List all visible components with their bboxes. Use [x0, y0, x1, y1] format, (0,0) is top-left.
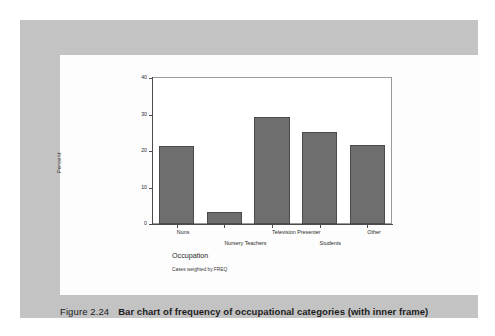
figure-caption-text: Bar chart of frequency of occupational c…	[118, 306, 428, 319]
bar-chart: 010203040 NunsNursery TeachersTelevision…	[60, 55, 480, 295]
figure-white-panel: 010203040 NunsNursery TeachersTelevision…	[60, 55, 480, 295]
x-axis-tick	[320, 225, 321, 228]
x-axis-tick	[224, 225, 225, 228]
y-axis-tick-label: 0	[136, 221, 147, 226]
x-axis-tick	[177, 225, 178, 228]
chart-footnote: Cases weighted by FREQ	[172, 267, 227, 272]
y-axis-tick-label: 20	[136, 148, 147, 153]
bar	[350, 145, 385, 224]
plot-region	[153, 78, 391, 224]
x-axis-tick	[367, 225, 368, 228]
y-axis-tick	[149, 224, 153, 225]
bar	[159, 146, 194, 224]
page-gray-band: 010203040 NunsNursery TeachersTelevision…	[20, 20, 478, 318]
y-axis-tick-label: 40	[136, 75, 147, 80]
bar	[302, 132, 337, 224]
x-axis-tick	[272, 225, 273, 228]
y-axis-title: Percent	[56, 152, 62, 173]
x-axis-title: Occupation	[172, 251, 208, 260]
figure-number: Figure 2.24	[60, 306, 109, 319]
y-axis-tick-label: 30	[136, 112, 147, 117]
figure-page: 010203040 NunsNursery TeachersTelevision…	[0, 0, 495, 336]
y-axis-tick-label: 10	[136, 185, 147, 190]
figure-caption: Figure 2.24 Bar chart of frequency of oc…	[60, 306, 490, 319]
bar	[254, 117, 289, 224]
bar	[207, 212, 242, 224]
